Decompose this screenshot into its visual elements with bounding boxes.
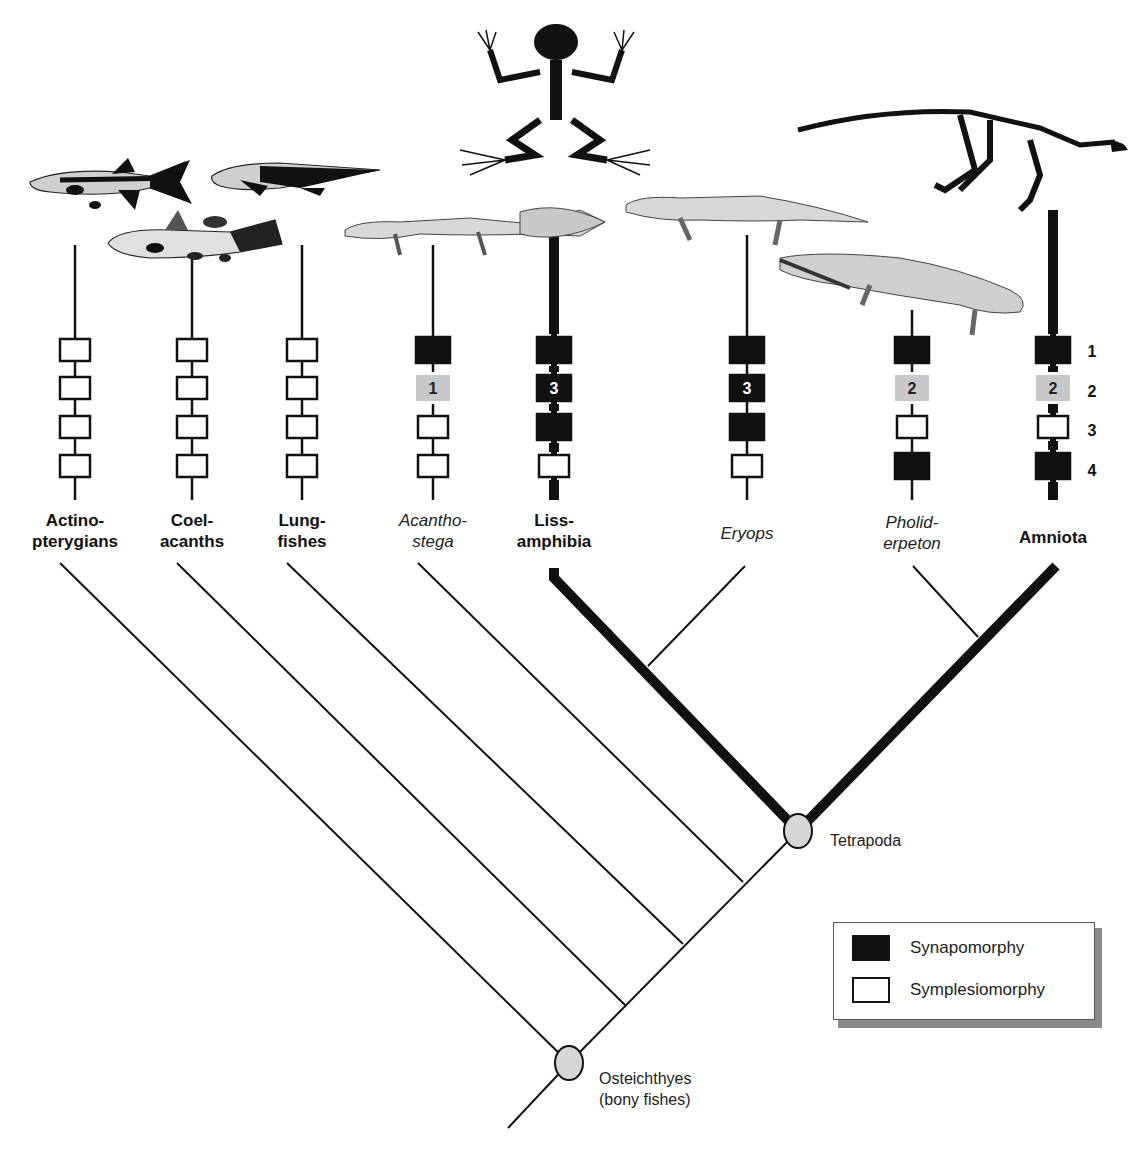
character-number-1: 1 (1082, 343, 1102, 361)
taxon-label-eryops: Eryops (687, 523, 807, 544)
node-label-osteichthyes: Osteichthyes (bony fishes) (599, 1068, 691, 1110)
character-number-label: 1 (429, 380, 438, 397)
character-box-actinopterygians-2-symplesiomorphy (60, 377, 90, 399)
legend: Synapomorphy Symplesiomorphy (833, 922, 1095, 1020)
character-number-4: 4 (1082, 462, 1102, 480)
pholiderpeton-skeleton-icon (780, 254, 1023, 335)
taxon-label-pholiderpeton: Pholid-erpeton (852, 512, 972, 554)
character-box-lungfishes-3-symplesiomorphy (287, 416, 317, 438)
character-box-lissamphibia-4-symplesiomorphy (539, 455, 569, 477)
character-box-eryops-3-synapomorphy (730, 414, 764, 440)
character-box-actinopterygians-3-symplesiomorphy (60, 416, 90, 438)
taxon-label-lissamphibia: Liss-amphibia (494, 510, 614, 552)
character-box-actinopterygians-1-symplesiomorphy (60, 339, 90, 361)
acanthostega-skeleton-icon (345, 208, 605, 255)
symplesiomorphy-swatch-icon (852, 977, 890, 1003)
character-box-coelacanths-3-symplesiomorphy (177, 416, 207, 438)
character-box-amniota-1-synapomorphy (1036, 337, 1070, 363)
character-box-actinopterygians-4-symplesiomorphy (60, 455, 90, 477)
character-box-pholiderpeton-3-symplesiomorphy (897, 416, 927, 438)
branch-lissamphibia (554, 568, 798, 831)
node-tetrapoda-icon (784, 814, 812, 848)
frog-skeleton-icon (460, 24, 650, 175)
node-label-tetrapoda: Tetrapoda (830, 830, 901, 851)
taxon-label-lungfishes: Lung-fishes (242, 510, 362, 552)
character-box-pholiderpeton-4-synapomorphy (895, 453, 929, 479)
character-box-coelacanths-4-symplesiomorphy (177, 455, 207, 477)
character-box-amniota-3-symplesiomorphy (1038, 416, 1068, 438)
character-number-label: 3 (550, 380, 559, 397)
legend-item-symplesiomorphy: Symplesiomorphy (852, 977, 1045, 1003)
coelacanth-icon (108, 210, 282, 262)
branch-amniota (798, 566, 1056, 831)
character-number-label: 2 (1049, 380, 1058, 397)
character-box-acanthostega-3-symplesiomorphy (418, 416, 448, 438)
legend-item-synapomorphy: Synapomorphy (852, 935, 1024, 961)
character-box-lungfishes-1-symplesiomorphy (287, 339, 317, 361)
character-box-lissamphibia-3-synapomorphy (537, 414, 571, 440)
branch-coelacanths (177, 563, 625, 1005)
character-box-lissamphibia-1-synapomorphy (537, 337, 571, 363)
taxon-label-acanthostega: Acantho-stega (373, 510, 493, 552)
character-number-label: 3 (743, 380, 752, 397)
spine-branch (569, 831, 798, 1063)
character-box-lungfishes-2-symplesiomorphy (287, 377, 317, 399)
taxon-label-amniota: Amniota (993, 527, 1113, 548)
taxon-label-actinopterygians: Actino-pterygians (15, 510, 135, 552)
character-box-eryops-4-symplesiomorphy (732, 455, 762, 477)
character-number-label: 2 (908, 380, 917, 397)
character-box-amniota-4-synapomorphy (1036, 453, 1070, 479)
character-box-lungfishes-4-symplesiomorphy (287, 455, 317, 477)
character-box-pholiderpeton-1-synapomorphy (895, 337, 929, 363)
branch-lungfishes (287, 563, 683, 944)
character-box-coelacanths-2-symplesiomorphy (177, 377, 207, 399)
dinosaur-skeleton-icon (798, 111, 1128, 210)
node-osteichthyes-icon (555, 1046, 583, 1080)
character-box-acanthostega-4-symplesiomorphy (418, 455, 448, 477)
synapomorphy-swatch-icon (852, 935, 890, 961)
character-number-3: 3 (1082, 422, 1102, 440)
branch-actinopterygians (60, 563, 569, 1063)
branch-pholiderpeton (913, 566, 978, 637)
branch-eryops (648, 566, 745, 666)
ray-finned-fish-icon (30, 158, 192, 210)
lungfish-icon (212, 163, 380, 196)
character-box-eryops-1-synapomorphy (730, 337, 764, 363)
character-box-acanthostega-1-synapomorphy (416, 337, 450, 363)
taxon-label-coelacanths: Coel-acanths (132, 510, 252, 552)
character-box-coelacanths-1-symplesiomorphy (177, 339, 207, 361)
character-number-2: 2 (1082, 383, 1102, 401)
